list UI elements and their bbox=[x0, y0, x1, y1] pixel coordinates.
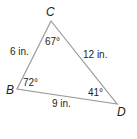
angle-label-d: 41° bbox=[88, 87, 103, 98]
vertex-label-b: B bbox=[6, 83, 14, 97]
vertex-label-d: D bbox=[117, 105, 126, 119]
angle-label-b: 72° bbox=[23, 77, 38, 88]
side-label-cd: 12 in. bbox=[83, 49, 107, 60]
angle-label-c: 67° bbox=[45, 36, 60, 47]
vertex-label-c: C bbox=[46, 5, 55, 19]
side-label-bd: 9 in. bbox=[52, 98, 71, 109]
triangle-diagram: C B D 67° 72° 41° 6 in. 12 in. 9 in. bbox=[0, 0, 137, 139]
side-label-bc: 6 in. bbox=[10, 46, 29, 57]
